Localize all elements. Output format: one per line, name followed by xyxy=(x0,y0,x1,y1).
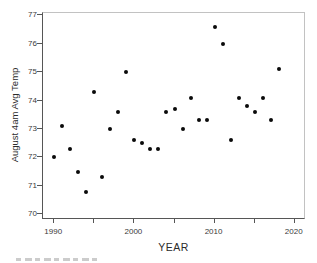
data-point xyxy=(277,67,281,71)
y-tick-label: 77 xyxy=(18,10,37,19)
data-point xyxy=(60,124,64,128)
y-tick-mark xyxy=(37,71,42,72)
y-tick-label: 71 xyxy=(18,181,37,190)
y-tick-mark xyxy=(37,43,42,44)
x-tick-mark xyxy=(133,219,134,223)
data-point xyxy=(108,127,112,131)
data-point xyxy=(68,147,72,151)
x-tick-mark xyxy=(254,219,255,223)
y-tick-label: 70 xyxy=(18,209,37,218)
x-tick-mark xyxy=(214,219,215,223)
y-tick-label: 73 xyxy=(18,124,37,133)
data-point xyxy=(140,141,144,145)
y-tick-label: 76 xyxy=(18,39,37,48)
y-tick-mark xyxy=(37,100,42,101)
y-tick-label: 75 xyxy=(18,67,37,76)
y-tick-label: 72 xyxy=(18,152,37,161)
y-tick-mark xyxy=(37,156,42,157)
x-axis-title: YEAR xyxy=(42,241,305,253)
y-tick-label: 74 xyxy=(18,96,37,105)
data-point xyxy=(269,118,273,122)
data-point xyxy=(52,155,56,159)
y-tick-mark xyxy=(37,213,42,214)
y-tick-mark xyxy=(37,128,42,129)
scatter-plot-figure: 70717273747576771990200020102020 August … xyxy=(0,0,317,263)
data-point xyxy=(76,170,80,174)
x-tick-mark xyxy=(294,219,295,223)
data-point xyxy=(164,110,168,114)
plot-area xyxy=(42,12,305,219)
data-point xyxy=(229,138,233,142)
data-point xyxy=(245,104,249,108)
y-tick-mark xyxy=(37,185,42,186)
data-point xyxy=(189,96,193,100)
data-point xyxy=(221,42,225,46)
y-tick-mark xyxy=(37,14,42,15)
x-tick-label: 2010 xyxy=(197,227,231,236)
data-point xyxy=(156,147,160,151)
data-point xyxy=(92,90,96,94)
data-point xyxy=(205,118,209,122)
x-tick-label: 2020 xyxy=(277,227,311,236)
data-point xyxy=(124,70,128,74)
data-point xyxy=(197,118,201,122)
data-point xyxy=(237,96,241,100)
data-point xyxy=(100,175,104,179)
x-tick-label: 2000 xyxy=(116,227,150,236)
x-tick-mark xyxy=(93,219,94,223)
cropped-caption-fragment xyxy=(16,258,98,261)
x-tick-mark xyxy=(53,219,54,223)
data-point xyxy=(148,147,152,151)
data-point xyxy=(132,138,136,142)
x-tick-mark xyxy=(174,219,175,223)
data-point xyxy=(253,110,257,114)
x-tick-label: 1990 xyxy=(36,227,70,236)
data-point xyxy=(116,110,120,114)
data-point xyxy=(261,96,265,100)
data-point xyxy=(84,190,88,194)
data-point xyxy=(181,127,185,131)
y-axis-title: August 4am Avg Temp xyxy=(9,12,21,219)
data-point xyxy=(173,107,177,111)
data-point xyxy=(213,25,217,29)
